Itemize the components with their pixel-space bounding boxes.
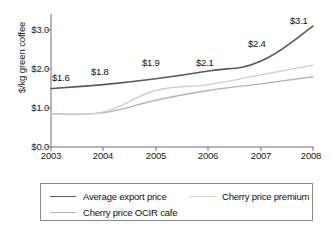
data-label-2008: $3.1 bbox=[290, 15, 308, 26]
data-label-2003: $1.6 bbox=[52, 72, 70, 83]
data-label-2005: $1.9 bbox=[142, 57, 160, 68]
line-chart: $/kg green coffee $3.0 $2.0 $1.0 $0.0 bbox=[0, 0, 333, 228]
series-line-cherry-price-premium bbox=[51, 77, 313, 115]
legend-swatch-icon-average-export-price bbox=[50, 196, 76, 197]
x-tick-label-2006: 2006 bbox=[188, 150, 228, 161]
data-label-2006: $2.1 bbox=[196, 57, 214, 68]
legend-swatch-icon-cherry-price-ocir-cafe bbox=[50, 212, 76, 213]
legend-label-average-export-price: Average export price bbox=[83, 191, 167, 202]
data-label-2004: $1.8 bbox=[91, 66, 109, 77]
legend-label-cherry-price-premium: Cherry price premium bbox=[222, 191, 309, 202]
legend-swatch-icon-cherry-price-premium bbox=[189, 196, 215, 197]
legend: Average export price Cherry price premiu… bbox=[40, 183, 313, 221]
x-tick-label-2005: 2005 bbox=[136, 150, 176, 161]
x-tick-label-2007: 2007 bbox=[241, 150, 281, 161]
data-label-2007: $2.4 bbox=[248, 38, 266, 49]
legend-label-cherry-price-ocir-cafe: Cherry price OCIR cafe bbox=[83, 207, 177, 218]
x-tick-label-2003: 2003 bbox=[31, 150, 71, 161]
series-line-average-export-price bbox=[51, 26, 313, 88]
legend-item-average-export-price[interactable]: Average export price bbox=[50, 189, 167, 203]
legend-item-cherry-price-ocir-cafe[interactable]: Cherry price OCIR cafe bbox=[50, 205, 177, 219]
legend-item-cherry-price-premium[interactable]: Cherry price premium bbox=[189, 189, 309, 203]
x-tick-label-2004: 2004 bbox=[83, 150, 123, 161]
x-tick-label-2008: 2008 bbox=[291, 150, 331, 161]
